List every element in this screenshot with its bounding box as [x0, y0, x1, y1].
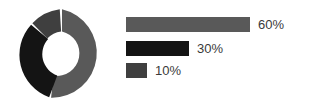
legend-item-10[interactable]: 10%: [126, 63, 181, 78]
legend-swatch-30: [126, 41, 189, 56]
donut-chart: [15, 7, 109, 101]
legend-item-60[interactable]: 60%: [126, 17, 284, 32]
legend-label-10: 10%: [155, 63, 181, 78]
legend-swatch-10: [126, 63, 147, 78]
donut-segment-30[interactable]: [19, 25, 57, 97]
legend-swatch-60: [126, 17, 250, 32]
legend-item-30[interactable]: 30%: [126, 41, 223, 56]
chart-legend: 60% 30% 10%: [126, 10, 310, 95]
legend-label-30: 30%: [197, 41, 223, 56]
donut-chart-figure: 60% 30% 10%: [0, 0, 310, 105]
donut-chart-svg: [15, 7, 109, 101]
legend-label-60: 60%: [258, 17, 284, 32]
